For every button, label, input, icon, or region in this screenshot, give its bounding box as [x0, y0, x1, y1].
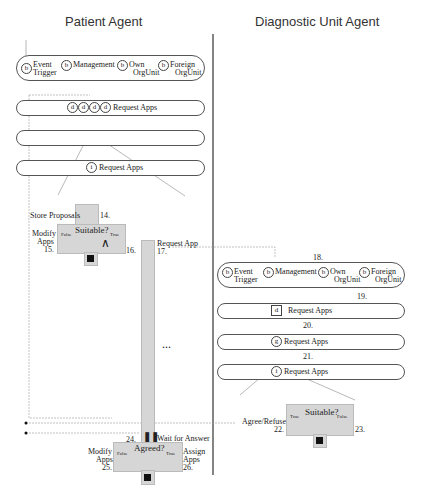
diagnostic-lane-1: b Event Trigger b Management b Own OrgUn…: [217, 262, 405, 288]
ellipsis: ...: [162, 340, 171, 348]
d-marker: d: [100, 102, 111, 113]
b-marker: b: [359, 267, 370, 278]
end-box: [313, 434, 327, 448]
patient-lane-3: [16, 130, 205, 146]
patient-lane-4: i Request Apps: [16, 160, 205, 176]
management-label: Management: [73, 61, 115, 69]
d-marker: d: [89, 102, 100, 113]
b-marker: b: [117, 60, 128, 71]
b-marker: b: [263, 267, 274, 278]
request-apps-label: Request Apps: [99, 164, 143, 172]
stop-icon: [144, 474, 151, 481]
i-marker: i: [86, 162, 97, 173]
d-marker: d: [78, 102, 89, 113]
diagram-canvas: Patient Agent Diagnostic Unit Agent b Ev…: [0, 0, 429, 495]
request-apps-label: Request Apps: [113, 104, 157, 112]
patient-lane-1: b Event Trigger b Management b Own OrgUn…: [16, 55, 205, 81]
diagnostic-lane-2: d Request Apps: [217, 303, 405, 319]
and-icon: ∧: [101, 239, 110, 247]
own-orgunit-label: OrgUnit: [133, 69, 160, 77]
g-marker: g: [271, 336, 282, 347]
suitable-decision-box: Suitable? False True ∧: [57, 224, 126, 254]
b-marker: b: [21, 63, 32, 74]
d-marker: d: [67, 102, 78, 113]
stop-icon: [316, 437, 323, 444]
suitable-decision-box: Suitable? True False: [286, 404, 354, 436]
b-marker: b: [158, 60, 169, 71]
patient-lane-2: d d d d Request Apps: [16, 100, 205, 116]
b-marker: b: [61, 60, 72, 71]
store-proposals-label: Store Proposals: [30, 212, 80, 220]
diagnostic-lane-4: i Request Apps: [217, 364, 405, 380]
foreign-orgunit-label: OrgUnit: [175, 69, 202, 77]
stop-icon: [87, 255, 94, 262]
i-marker: i: [271, 366, 282, 377]
diagnostic-lane-3: g Request Apps: [217, 334, 405, 350]
agreed-decision-box: Agreed? False True: [113, 442, 183, 472]
b-marker: b: [318, 267, 329, 278]
end-box: [141, 470, 155, 485]
d-marker: d: [271, 305, 282, 316]
b-marker: b: [222, 267, 233, 278]
end-box: [84, 252, 98, 266]
